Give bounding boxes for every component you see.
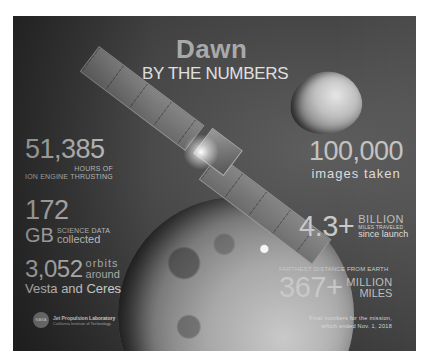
note-line-1: Final numbers for the mission, [309, 315, 392, 321]
stat-value: 172 [25, 197, 110, 224]
stat-label-3: since launch [358, 230, 408, 239]
stat-label-1: MILLION [346, 277, 392, 288]
org-line-2: California Institute of Technology [53, 321, 115, 326]
nasa-logo-icon: NASA [33, 312, 49, 328]
stat-value: 4.3+ [299, 212, 354, 241]
stat-science-data: 172 GB SCIENCE DATA collected [25, 197, 110, 245]
stat-miles-traveled: 4.3+ BILLION MILES TRAVELED since launch [299, 212, 408, 241]
stat-label-3: Vesta and Ceres [25, 281, 121, 296]
stat-value: 100,000 [309, 138, 403, 165]
stat-unit: GB [25, 225, 54, 245]
infographic-panel: Dawn BY THE NUMBERS 51,385 HOURS OF ION … [13, 16, 416, 351]
stat-label: images taken [309, 166, 403, 181]
footer-note: Final numbers for the mission, which end… [309, 315, 392, 329]
jpl-credit: Jet Propulsion Laboratory California Ins… [53, 315, 115, 326]
stat-value: 367+ [279, 273, 342, 302]
stat-images: 100,000 images taken [309, 138, 403, 181]
note-line-2: which ended Nov. 1, 2018 [309, 323, 392, 329]
vesta-icon [286, 67, 366, 138]
stat-value: 51,385 [25, 136, 113, 163]
stat-label-2: around [86, 269, 120, 280]
stat-farthest-distance: FARTHEST DISTANCE FROM EARTH 367+ MILLIO… [279, 266, 392, 302]
ion-engine-glow [183, 134, 219, 170]
stat-ion-engine: 51,385 HOURS OF ION ENGINE THRUSTING [25, 136, 113, 180]
page-title: Dawn [176, 34, 247, 65]
stat-label-1: HOURS OF [25, 165, 113, 172]
page-subtitle: BY THE NUMBERS [142, 64, 288, 84]
stat-label-2: ION ENGINE THRUSTING [25, 173, 113, 180]
stat-label-2: MILES [346, 288, 392, 299]
stat-value: 3,052 [25, 257, 83, 281]
stat-label-2: collected [57, 234, 110, 245]
stat-orbits: 3,052 orbits around Vesta and Ceres [25, 257, 121, 296]
